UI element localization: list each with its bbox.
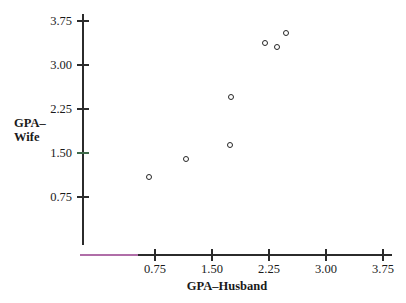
y-axis-title-line-1: GPA– [14,116,76,130]
data-point [283,30,289,36]
data-point [262,40,268,46]
x-axis-tick [211,249,213,261]
x-axis-tick [268,249,270,261]
y-axis-tick-label: 3.75 [50,15,72,27]
x-axis-tick [382,249,384,261]
data-point [227,142,233,148]
x-axis-tick-label: 1.50 [201,263,223,275]
x-axis-tick [325,249,327,261]
data-point [274,44,280,50]
y-axis-line [82,14,84,245]
y-axis-title-line-2: Wife [14,130,76,144]
x-axis-tick [154,249,156,261]
scatter-plot: 3.753.002.251.500.75 0.751.502.253.003.7… [0,0,406,303]
y-axis-tick [77,108,89,110]
y-axis-tick [77,196,89,198]
y-axis-tick [77,152,89,154]
y-axis-tick-label: 3.00 [50,59,72,71]
x-axis-tick-label: 3.75 [372,263,394,275]
data-point [146,174,152,180]
x-axis-title: GPA–Husband [0,280,406,293]
x-axis-tick-label: 3.00 [315,263,337,275]
data-point [183,156,189,162]
x-axis-tick-label: 2.25 [258,263,280,275]
y-axis-tick-label: 2.25 [50,103,72,115]
x-axis-tick-label: 0.75 [144,263,166,275]
y-axis-tick-label: 0.75 [50,191,72,203]
data-point [228,94,234,100]
y-axis-tick [77,64,89,66]
x-axis-origin-accent [80,254,138,256]
y-axis-tick-label: 1.50 [50,147,72,159]
y-axis-tick [77,20,89,22]
y-axis-title: GPA– Wife [14,116,76,144]
